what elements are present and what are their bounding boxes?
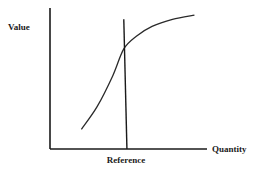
reference-line xyxy=(124,19,127,149)
y-axis-label: Value xyxy=(8,22,30,32)
value-curve-line xyxy=(81,15,194,129)
reference-label: Reference xyxy=(107,155,145,165)
x-axis-label: Quantity xyxy=(212,144,247,154)
chart: Value Quantity Reference xyxy=(0,0,258,173)
